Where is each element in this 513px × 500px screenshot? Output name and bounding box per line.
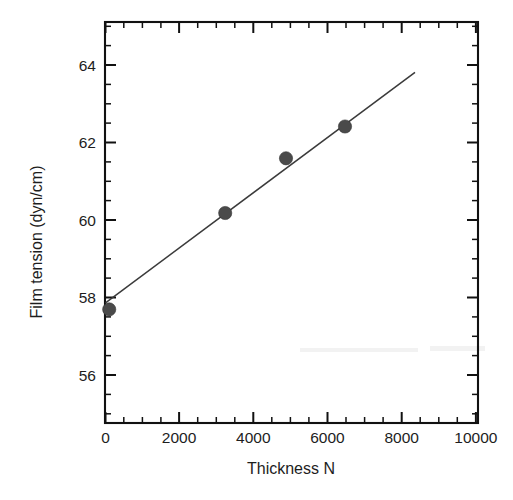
x-axis-ticklabels: 0 2000 4000 6000 8000 10000 [101,429,498,446]
x-ticklabel-8000: 8000 [384,429,419,446]
x-ticklabel-6000: 6000 [310,429,345,446]
x-ticklabel-10000: 10000 [454,429,497,446]
x-axis-ticks [106,22,476,423]
y-axis-title: Film tension (dyn/cm) [28,166,45,319]
data-point [338,120,351,133]
y-ticklabel-56: 56 [79,367,96,384]
y-axis-ticklabels: 56 58 60 62 64 [79,57,97,384]
linear-fit-line [106,72,416,303]
data-point [219,206,232,219]
y-ticklabel-62: 62 [79,134,96,151]
data-points [103,120,352,316]
y-axis-ticks [105,26,478,414]
chart-figure: 0 2000 4000 6000 8000 10000 Thickness N [0,0,513,500]
scatter-plot-svg: 0 2000 4000 6000 8000 10000 Thickness N [0,0,513,500]
plot-frame [105,22,478,423]
y-ticklabel-58: 58 [79,289,96,306]
data-point [103,303,116,316]
x-ticklabel-4000: 4000 [236,429,271,446]
y-ticklabel-60: 60 [79,212,97,229]
scan-artifact-smudges [300,346,485,352]
x-ticklabel-2000: 2000 [162,429,197,446]
x-axis-title: Thickness N [247,460,335,477]
x-ticklabel-0: 0 [101,429,110,446]
data-point [279,152,292,165]
y-ticklabel-64: 64 [79,57,97,74]
